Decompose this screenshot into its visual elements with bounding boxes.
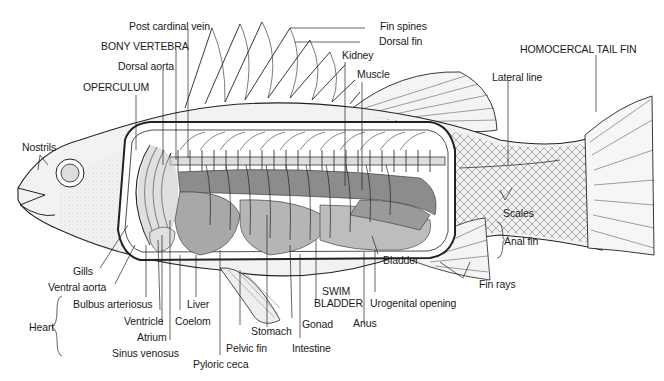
label-pelvic-fin: Pelvic fin: [226, 342, 267, 354]
label-stomach: Stomach: [251, 325, 292, 337]
label-fin-spines: Fin spines: [380, 20, 427, 32]
label-gonad: Gonad: [302, 318, 333, 330]
label-post-cardinal-vein: Post cardinal vein: [129, 20, 210, 32]
dorsal-fin-spines: [185, 22, 360, 108]
label-lateral-line: Lateral line: [492, 71, 542, 83]
label-ventral-aorta: Ventral aorta: [48, 281, 106, 293]
label-heart: Heart: [29, 321, 54, 333]
label-dorsal-fin: Dorsal fin: [379, 35, 422, 47]
label-pyloric-ceca: Pyloric ceca: [193, 358, 248, 370]
label-swim-bladder-2: BLADDER: [314, 297, 363, 309]
label-kidney: Kidney: [342, 49, 374, 61]
label-coelom: Coelom: [175, 315, 211, 327]
label-nostrils: Nostrils: [22, 141, 56, 153]
label-bony-vertebra: BONY VERTEBRA: [101, 40, 189, 52]
label-gills: Gills: [73, 265, 93, 277]
label-atrium: Atrium: [137, 331, 167, 343]
label-operculum: OPERCULUM: [83, 81, 149, 93]
label-sinus-venosus: Sinus venosus: [112, 347, 179, 359]
label-fin-rays: Fin rays: [479, 278, 516, 290]
label-swim-bladder-1: SWIM: [322, 285, 350, 297]
label-liver: Liver: [187, 298, 209, 310]
label-homocercal-tail-fin: HOMOCERCAL TAIL FIN: [520, 43, 637, 55]
label-scales: Scales: [503, 207, 534, 219]
label-anal-fin: Anal fin: [504, 235, 538, 247]
label-dorsal-aorta: Dorsal aorta: [118, 60, 174, 72]
label-bulbus-arteriosus: Bulbus arteriosus: [73, 298, 152, 310]
label-urogenital-opening: Urogenital opening: [370, 297, 456, 309]
label-anus: Anus: [353, 317, 377, 329]
fish-anatomy-diagram: Post cardinal vein BONY VERTEBRA Dorsal …: [0, 0, 664, 381]
label-muscle: Muscle: [357, 68, 390, 80]
label-intestine: Intestine: [292, 342, 331, 354]
vertebral-column: [170, 157, 445, 165]
label-ventricle: Ventricle: [124, 315, 163, 327]
label-bladder: Bladder: [383, 254, 419, 266]
